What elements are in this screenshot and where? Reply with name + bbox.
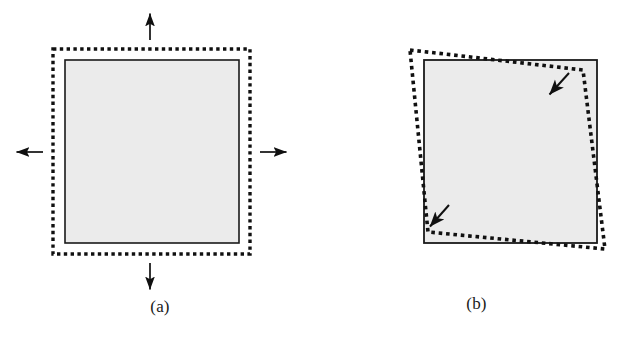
solid-square [65,60,239,243]
figure-root: (a) (b) [0,0,633,339]
panel-b-graphic [320,0,633,339]
panel-a: (a) [0,0,320,339]
panel-a-caption: (a) [0,297,320,317]
panel-b: (b) [320,0,633,339]
solid-square [424,60,597,243]
panel-b-caption: (b) [320,294,633,314]
panel-a-graphic [0,0,320,339]
